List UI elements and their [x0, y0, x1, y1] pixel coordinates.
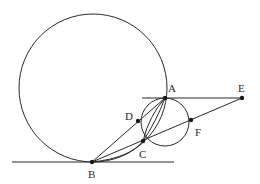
point-B	[90, 160, 94, 164]
line-BCFE	[92, 98, 242, 162]
label-D: D	[125, 110, 133, 122]
point-E	[240, 96, 244, 100]
label-C: C	[139, 148, 146, 160]
geometry-diagram: A B C D E F	[0, 0, 260, 184]
point-F	[189, 118, 193, 122]
point-C	[141, 139, 145, 143]
chord-CA	[143, 98, 165, 141]
label-F: F	[195, 126, 201, 138]
label-A: A	[168, 82, 176, 94]
label-E: E	[238, 82, 245, 94]
point-D	[136, 119, 140, 123]
point-A	[163, 96, 167, 100]
label-B: B	[88, 168, 95, 180]
